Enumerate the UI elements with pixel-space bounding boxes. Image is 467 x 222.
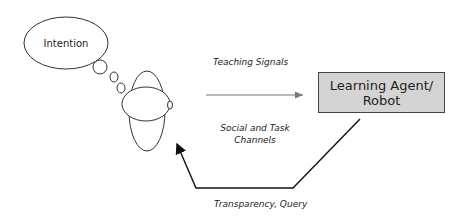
intention-label: Intention xyxy=(24,17,108,69)
thought-dot-small xyxy=(117,83,125,93)
human-nose-icon xyxy=(168,101,173,109)
agent-label-line1: Learning Agent/ xyxy=(330,78,433,93)
channels-label-line1: Social and Task xyxy=(210,122,300,134)
learning-agent-box: Learning Agent/ Robot xyxy=(318,72,445,113)
channels-label-line2: Channels xyxy=(210,134,300,146)
channels-label: Social and Task Channels xyxy=(210,122,300,146)
thought-dot-medium xyxy=(110,72,118,82)
transparency-label: Transparency, Query xyxy=(214,199,307,209)
agent-label-line2: Robot xyxy=(330,93,433,108)
human-head-icon xyxy=(122,87,170,121)
teaching-signals-label: Teaching Signals xyxy=(213,57,288,67)
